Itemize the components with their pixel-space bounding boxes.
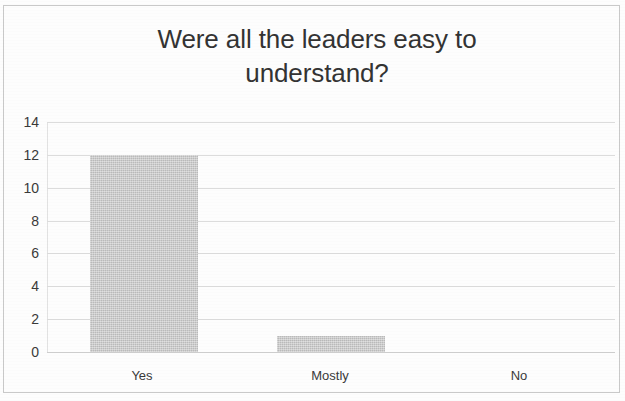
y-axis-tick-label: 14 xyxy=(5,114,39,130)
y-axis-tick-label: 6 xyxy=(5,245,39,261)
chart-title: Were all the leaders easy to understand? xyxy=(47,22,587,90)
bar-yes[interactable] xyxy=(90,155,198,352)
plot-area xyxy=(47,122,615,352)
x-axis-tick-label-mostly: Mostly xyxy=(311,368,349,383)
x-axis-tick-label-no: No xyxy=(511,368,528,383)
gridline-14 xyxy=(47,122,615,123)
y-axis-tick-label: 10 xyxy=(5,180,39,196)
x-axis-tick-label-yes: Yes xyxy=(131,368,152,383)
bar-mostly[interactable] xyxy=(277,336,385,352)
y-axis-tick-label: 8 xyxy=(5,213,39,229)
y-axis-tick-labels: 14 12 10 8 6 4 2 0 xyxy=(0,122,39,352)
gridline-baseline-0 xyxy=(47,352,615,353)
chart-screenshot: Were all the leaders easy to understand?… xyxy=(0,0,625,401)
y-axis-tick-label: 2 xyxy=(5,311,39,327)
y-axis-tick-label: 12 xyxy=(5,147,39,163)
y-axis-tick-label: 4 xyxy=(5,278,39,294)
y-axis-tick-label: 0 xyxy=(5,344,39,360)
